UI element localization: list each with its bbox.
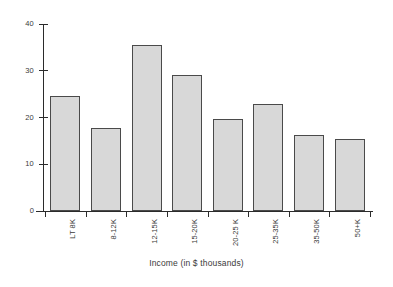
x-axis-category-label: 12-15K bbox=[150, 219, 159, 279]
x-axis-tick bbox=[289, 211, 290, 217]
plot-area bbox=[45, 24, 370, 211]
x-axis-category-label: LT 8K bbox=[68, 219, 77, 279]
bar bbox=[91, 128, 121, 211]
x-axis-category-label: 8-12K bbox=[109, 219, 118, 279]
x-axis-category-label: 15-20K bbox=[190, 219, 199, 279]
bar bbox=[132, 45, 162, 211]
y-axis-tick-label: 10 bbox=[12, 159, 34, 168]
x-axis-tick bbox=[208, 211, 209, 217]
y-axis-tick-label: 30 bbox=[12, 66, 34, 75]
y-axis-tick-label: 0 bbox=[12, 206, 34, 215]
y-axis-tick-label-wrap: 20 bbox=[10, 113, 34, 123]
x-axis-tick bbox=[329, 211, 330, 217]
x-axis-tick bbox=[45, 211, 46, 217]
y-axis-tick-label: 40 bbox=[12, 19, 34, 28]
x-axis-category-label: 50+K bbox=[353, 219, 362, 279]
bar bbox=[50, 96, 80, 211]
bar bbox=[335, 139, 365, 211]
x-axis-category-label: 35-50K bbox=[312, 219, 321, 279]
x-axis-tick bbox=[86, 211, 87, 217]
y-axis-ticks: 010203040 bbox=[0, 0, 50, 287]
bar bbox=[213, 119, 243, 211]
bar bbox=[172, 75, 202, 211]
bar bbox=[253, 104, 283, 211]
y-axis-tick-label-wrap: 10 bbox=[10, 159, 34, 169]
x-axis-tick bbox=[167, 211, 168, 217]
x-axis-title: Income (in $ thousands) bbox=[0, 258, 393, 268]
y-axis-tick-label-wrap: 40 bbox=[10, 19, 34, 29]
bar-chart: 010203040 LT 8K8-12K12-15K15-20K20-25 K2… bbox=[0, 0, 393, 287]
x-axis-tick bbox=[370, 211, 371, 217]
y-axis-tick-label: 20 bbox=[12, 113, 34, 122]
x-axis-tick bbox=[248, 211, 249, 217]
y-axis-tick-label-wrap: 0 bbox=[10, 206, 34, 216]
y-axis-tick bbox=[39, 211, 48, 212]
y-axis-tick-label-wrap: 30 bbox=[10, 66, 34, 76]
x-axis-category-label: 25-35K bbox=[271, 219, 280, 279]
bar bbox=[294, 135, 324, 211]
x-axis-tick bbox=[126, 211, 127, 217]
x-axis-category-label: 20-25 K bbox=[231, 219, 240, 279]
